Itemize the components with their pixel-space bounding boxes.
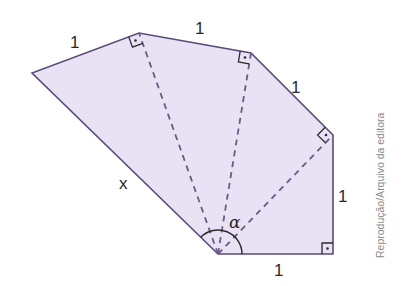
label-edge-top-left: 1 xyxy=(70,33,79,52)
label-edge-x: x xyxy=(119,174,128,193)
label-edge-bottom: 1 xyxy=(274,261,283,280)
right-angle-dot-2 xyxy=(244,56,247,59)
geometry-diagram: 1 1 1 1 1 x α Reprodução/Arquivo da edit… xyxy=(0,0,404,286)
label-edge-top: 1 xyxy=(195,19,204,38)
right-angle-dot-1 xyxy=(134,39,137,42)
image-credit: Reprodução/Arquivo da editora xyxy=(374,112,386,258)
label-edge-right: 1 xyxy=(338,187,347,206)
right-angle-dot-3 xyxy=(325,134,328,137)
polygon-shape xyxy=(32,33,333,254)
label-angle-alpha: α xyxy=(229,212,241,232)
right-angle-dot-4 xyxy=(326,247,329,250)
label-edge-upper-right: 1 xyxy=(291,78,300,97)
